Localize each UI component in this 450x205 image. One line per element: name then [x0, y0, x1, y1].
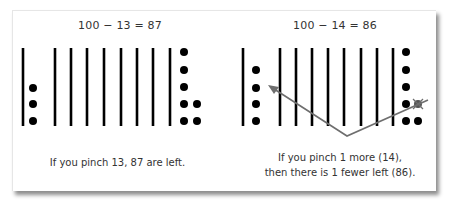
move-arrow-icon [271, 87, 428, 136]
unit-dot [252, 117, 260, 125]
left-panel-model [23, 48, 170, 126]
unit-dot [29, 117, 37, 125]
caption-right: If you pinch 1 more (14), then there is … [255, 150, 425, 180]
unit-dot [193, 100, 201, 108]
unit-dot [252, 100, 260, 108]
unit-dot [252, 84, 260, 92]
unit-dot [402, 100, 410, 108]
unit-dot [180, 100, 188, 108]
unit-dot [402, 83, 410, 91]
unit-dot [180, 117, 188, 125]
right-panel-model [243, 48, 393, 126]
caption-line: If you pinch 13, 87 are left. [35, 155, 200, 170]
unit-dot [193, 117, 201, 125]
equation-left: 100 − 13 = 87 [60, 19, 180, 32]
unit-dot [29, 84, 37, 92]
caption-line: then there is 1 fewer left (86). [255, 165, 425, 180]
unit-dot [180, 66, 188, 74]
equation-right: 100 − 14 = 86 [275, 19, 395, 32]
caption-line: If you pinch 1 more (14), [255, 150, 425, 165]
arrow-head-icon [268, 85, 279, 94]
unit-dot [180, 83, 188, 91]
unit-dot [402, 117, 410, 125]
unit-dot [402, 48, 410, 56]
unit-dot [414, 117, 422, 125]
caption-left: If you pinch 13, 87 are left. [35, 155, 200, 170]
unit-dot [252, 66, 260, 74]
unit-dot [180, 48, 188, 56]
unit-dot [29, 100, 37, 108]
unit-dot [402, 66, 410, 74]
